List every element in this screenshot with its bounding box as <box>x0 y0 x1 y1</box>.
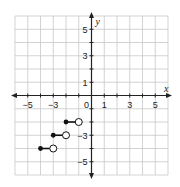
x-tick-label: 3 <box>127 100 132 110</box>
coordinate-plane: −5−30135531−3−5xy <box>0 0 180 187</box>
closed-point <box>38 146 43 151</box>
open-point <box>50 145 57 152</box>
x-tick-label: −5 <box>23 100 33 110</box>
x-tick-label: 5 <box>153 100 158 110</box>
y-tick-label: 5 <box>82 25 87 35</box>
open-point <box>63 132 70 139</box>
x-axis-arrow-right-icon <box>166 93 172 98</box>
y-axis-arrow-down-icon <box>89 173 94 179</box>
y-tick-label: −5 <box>77 157 87 167</box>
axes <box>11 12 172 179</box>
y-axis-arrow-up-icon <box>89 12 94 18</box>
y-tick-label: 1 <box>82 78 87 88</box>
y-axis-label: y <box>95 16 101 27</box>
x-tick-label: −3 <box>48 100 58 110</box>
x-axis-arrow-left-icon <box>11 93 17 98</box>
open-point <box>75 119 82 126</box>
x-tick-label: 1 <box>102 100 107 110</box>
closed-point <box>51 133 56 138</box>
x-tick-label: 0 <box>84 100 89 110</box>
tick-labels: −5−30135531−3−5xy <box>23 16 169 167</box>
closed-point <box>64 120 69 125</box>
y-tick-label: −3 <box>77 131 87 141</box>
y-tick-label: 3 <box>82 51 87 61</box>
x-axis-label: x <box>163 83 169 94</box>
